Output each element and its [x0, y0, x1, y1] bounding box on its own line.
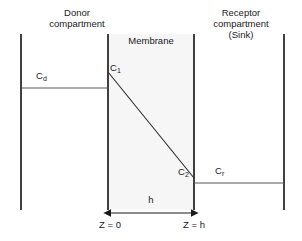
receptor-compartment-label-line3: (Sink) [213, 29, 268, 40]
receptor-concentration-subscript: r [222, 170, 224, 177]
figure-canvas: Donor compartment Membrane Receptor comp… [0, 0, 302, 241]
donor-compartment-label-line2: compartment [49, 18, 104, 29]
membrane-right-concentration-label: C2 [178, 166, 189, 178]
receptor-compartment-label-line2: compartment [213, 18, 268, 29]
donor-concentration-symbol: C [36, 70, 43, 81]
membrane-left-concentration-subscript: 1 [117, 67, 121, 74]
receptor-compartment-label-line1: Receptor [213, 7, 268, 18]
membrane-right-concentration-symbol: C [178, 166, 185, 177]
donor-concentration-label: Cd [36, 70, 47, 82]
donor-compartment-label: Donor compartment [49, 7, 104, 29]
receptor-concentration-symbol: C [215, 165, 222, 176]
thickness-label: h [148, 194, 153, 205]
donor-concentration-subscript: d [43, 75, 47, 82]
z-h-label: Z = h [183, 219, 205, 230]
membrane-left-concentration-label: C1 [110, 62, 121, 74]
z-zero-label: Z = 0 [99, 219, 121, 230]
receptor-compartment-label: Receptor compartment (Sink) [213, 7, 268, 40]
receptor-concentration-label: Cr [215, 165, 224, 177]
membrane-region [108, 34, 194, 210]
membrane-label: Membrane [128, 35, 173, 46]
membrane-right-concentration-subscript: 2 [185, 171, 189, 178]
membrane-left-concentration-symbol: C [110, 62, 117, 73]
donor-compartment-label-line1: Donor [49, 7, 104, 18]
